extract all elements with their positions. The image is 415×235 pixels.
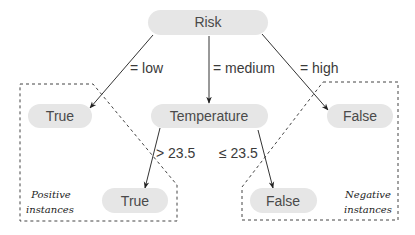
edge-le-label: ≤ 23.5 bbox=[219, 145, 258, 161]
node-risk: Risk bbox=[148, 10, 268, 35]
node-gt-leaf: True bbox=[102, 188, 168, 213]
positive-instances-label-line1: Positive bbox=[30, 189, 71, 200]
node-low-leaf-label: True bbox=[46, 108, 74, 124]
positive-instances-label-line2: instances bbox=[26, 204, 74, 215]
decision-tree-diagram: = low = medium = high > 23.5 ≤ 23.5 Risk… bbox=[0, 0, 415, 235]
edge-gt-label: > 23.5 bbox=[156, 145, 196, 161]
node-temperature-label: Temperature bbox=[170, 108, 249, 124]
node-risk-label: Risk bbox=[194, 14, 222, 30]
node-le-leaf: False bbox=[250, 188, 317, 213]
node-low-leaf: True bbox=[28, 104, 92, 128]
edge-high-label: = high bbox=[300, 60, 339, 76]
edge-low-label: = low bbox=[130, 60, 164, 76]
node-high-leaf: False bbox=[327, 104, 393, 128]
negative-instances-label-line1: Negative bbox=[344, 189, 391, 200]
node-le-leaf-label: False bbox=[266, 193, 300, 209]
node-gt-leaf-label: True bbox=[121, 193, 149, 209]
edge-le-arrow bbox=[258, 130, 273, 188]
edge-medium-label: = medium bbox=[213, 60, 275, 76]
node-temperature: Temperature bbox=[151, 104, 268, 128]
node-high-leaf-label: False bbox=[343, 108, 377, 124]
negative-instances-label-line2: instances bbox=[344, 204, 392, 215]
